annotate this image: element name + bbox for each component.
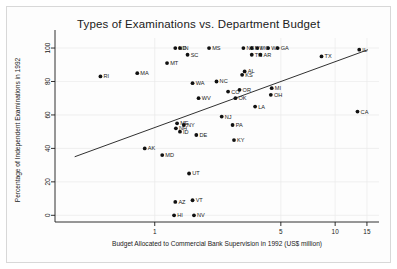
data-point [187, 172, 191, 176]
gridlines [55, 38, 379, 222]
y-tick-label: 0 [44, 213, 51, 217]
data-point-label: VT [196, 197, 204, 203]
data-point [357, 48, 361, 52]
y-tick-label: 80 [44, 77, 51, 85]
data-point-label: MS [212, 45, 221, 51]
data-point [207, 46, 211, 50]
data-point [276, 46, 280, 50]
tick-labels: 020406080100151015 [44, 42, 371, 235]
data-point-label: TX [325, 53, 332, 59]
data-point [269, 93, 273, 97]
data-point [234, 96, 238, 100]
data-point [165, 61, 169, 65]
data-point-label: SC [191, 52, 199, 58]
data-point [238, 88, 242, 92]
y-tick-label: 100 [44, 42, 51, 53]
y-tick-label: 60 [44, 111, 51, 119]
data-point-label: GA [281, 45, 289, 51]
data-point-label: OK [239, 95, 247, 101]
data-point-label: MI [275, 85, 282, 91]
data-point [231, 123, 235, 127]
data-point-label: MD [165, 152, 174, 158]
data-point [232, 138, 236, 142]
data-point [250, 53, 254, 57]
data-point-label: RI [104, 73, 110, 79]
data-points: RINDINSCMTMSMAWANCNENVMOWIGATNARTXILALKS… [99, 45, 369, 218]
chart-figure: Types of Examinations vs. Department Bud… [0, 0, 397, 269]
data-point [186, 53, 190, 57]
regression-line [75, 50, 368, 157]
data-point [178, 46, 182, 50]
scatter-plot: RINDINSCMTMSMAWANCNENVMOWIGATNARTXILALKS… [0, 0, 397, 269]
x-axis-title: Budget Allocated to Commercial Bank Supe… [112, 240, 322, 248]
data-point-label: ID [183, 129, 189, 135]
data-point-label: AZ [178, 199, 186, 205]
data-point [192, 213, 196, 217]
data-point [253, 105, 257, 109]
fitted-regression-line [75, 50, 368, 157]
data-point-label: NC [220, 78, 228, 84]
data-point-label: IN [183, 45, 189, 51]
data-point-label: AK [148, 145, 156, 151]
data-point [250, 46, 254, 50]
data-point-label: NY [187, 122, 195, 128]
data-point-label: IL [362, 47, 367, 53]
y-tick-label: 20 [44, 178, 51, 186]
data-point-label: OR [243, 87, 251, 93]
data-point [220, 115, 224, 119]
y-axis-title: Percentage of Independent Examinations i… [14, 57, 22, 202]
data-point [194, 133, 198, 137]
data-point [173, 200, 177, 204]
data-point-label: HI [177, 212, 183, 218]
data-point-label: KY [237, 137, 245, 143]
data-point [255, 46, 259, 50]
x-tick-label: 10 [332, 228, 340, 235]
data-point [226, 90, 230, 94]
data-point-label: AR [263, 52, 271, 58]
data-point [241, 46, 245, 50]
data-point [173, 46, 177, 50]
data-point-label: NV [197, 212, 205, 218]
data-point [215, 80, 219, 84]
axis-ticks [51, 48, 367, 226]
x-tick-label: 15 [363, 228, 371, 235]
data-point-label: CA [361, 109, 369, 115]
y-tick-label: 40 [44, 144, 51, 152]
x-tick-label: 5 [279, 228, 283, 235]
data-point-label: MT [170, 60, 179, 66]
data-point-label: KS [245, 72, 253, 78]
data-point [135, 71, 139, 75]
data-point [191, 198, 195, 202]
data-point [356, 110, 360, 114]
data-point-label: WA [196, 80, 205, 86]
data-point [174, 126, 178, 130]
data-point-label: PA [236, 122, 243, 128]
data-point-label: OH [274, 92, 282, 98]
data-point [172, 213, 176, 217]
data-point-label: UT [192, 170, 200, 176]
data-point [197, 96, 201, 100]
data-point [143, 147, 147, 151]
data-point [270, 86, 274, 90]
data-point [266, 46, 270, 50]
data-point-label: MA [140, 70, 149, 76]
data-point [191, 81, 195, 85]
data-point-label: WV [202, 95, 211, 101]
data-point [160, 153, 164, 157]
data-point [240, 73, 244, 77]
data-point-label: DE [199, 132, 207, 138]
data-point-label: LA [258, 104, 265, 110]
data-point [178, 130, 182, 134]
data-point-label: NJ [225, 114, 232, 120]
data-point [99, 75, 103, 79]
x-tick-label: 1 [153, 228, 157, 235]
data-point [258, 53, 262, 57]
data-point [320, 55, 324, 59]
